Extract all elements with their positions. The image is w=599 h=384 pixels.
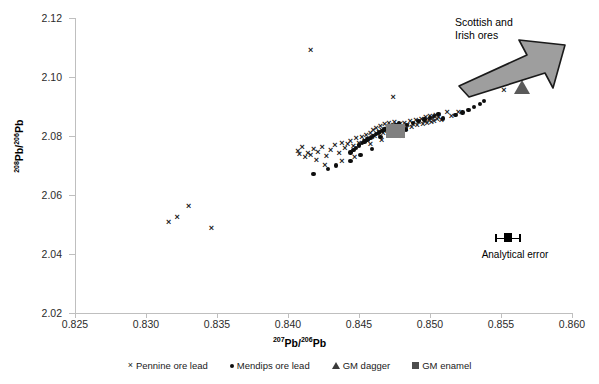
y-tick-label: 2.12 <box>20 13 62 23</box>
legend-item-3: GM enamel <box>412 360 471 371</box>
data-point-x <box>319 144 326 151</box>
scatter-plot-figure: 2.022.042.062.082.102.12 0.8250.8300.835… <box>0 0 599 384</box>
trend-arrow-icon <box>455 36 570 98</box>
annotation-line-1: Scottish and <box>455 16 560 29</box>
analytical-error-marker <box>495 233 521 243</box>
x-axis-title-end: Pb <box>313 337 326 349</box>
chart-legend: ×Pennine ore leadMendips ore leadGM dagg… <box>0 360 599 371</box>
data-point-dot <box>466 108 470 112</box>
data-point-dot <box>348 159 352 163</box>
data-point-dot <box>370 147 374 151</box>
legend-label: GM dagger <box>343 360 391 371</box>
x-tick-label: 0.860 <box>542 318 599 330</box>
data-point-dot <box>358 153 362 157</box>
error-bar-cap-right <box>519 234 521 242</box>
legend-marker-icon <box>412 362 419 369</box>
data-point-x <box>313 157 320 164</box>
data-point-dot <box>472 105 476 109</box>
data-point-dot <box>436 112 440 116</box>
data-point-dot <box>478 102 482 106</box>
x-tick-label: 0.845 <box>329 318 389 330</box>
x-tick-label: 0.825 <box>45 318 105 330</box>
data-point-x <box>174 214 181 221</box>
data-point-dot <box>311 172 315 176</box>
data-point-x <box>307 47 314 54</box>
legend-label: GM enamel <box>422 360 471 371</box>
data-point-dot <box>441 116 445 120</box>
y-axis-title: 208Pb/206Pb <box>13 96 26 196</box>
data-point-dot <box>334 163 338 167</box>
y-tick-label: 2.02 <box>20 308 62 318</box>
data-point-x <box>338 158 345 165</box>
error-bar-cap-left <box>495 234 497 242</box>
data-point-x <box>165 219 172 226</box>
x-axis-title-mid: Pb/ <box>285 337 301 349</box>
legend-label: Pennine ore lead <box>136 360 208 371</box>
x-axis-title: 207Pb/206Pb <box>0 336 599 349</box>
legend-marker-icon: × <box>128 361 133 370</box>
y-tick-label: 2.06 <box>20 190 62 200</box>
y-tick-label: 2.10 <box>20 72 62 82</box>
legend-label: Mendips ore lead <box>237 360 310 371</box>
data-point-dot <box>460 110 464 114</box>
x-tick-label: 0.835 <box>187 318 247 330</box>
data-point-dot <box>453 113 457 117</box>
data-point-dot <box>378 135 382 139</box>
y-axis-title-sup2: 206 <box>13 133 20 145</box>
x-tick-label: 0.850 <box>400 318 460 330</box>
data-point-dot <box>326 167 330 171</box>
x-axis-title-sup2: 206 <box>301 336 313 343</box>
legend-marker-icon <box>332 362 340 369</box>
data-point-x <box>208 225 215 232</box>
x-axis-line <box>75 313 572 314</box>
error-bar-center <box>504 233 512 242</box>
analytical-error-label: Analytical error <box>440 249 590 260</box>
legend-item-0: ×Pennine ore lead <box>128 360 208 371</box>
y-axis-title-mid: Pb/ <box>13 145 25 161</box>
y-axis-title-sup1: 208 <box>13 161 20 173</box>
data-point-dot <box>422 117 426 121</box>
data-point-dot <box>482 99 486 103</box>
legend-item-1: Mendips ore lead <box>230 360 310 371</box>
legend-item-2: GM dagger <box>332 360 391 371</box>
x-axis-title-sup1: 207 <box>273 336 285 343</box>
data-point-x <box>185 203 192 210</box>
x-tick-label: 0.840 <box>258 318 318 330</box>
legend-marker-icon <box>230 364 234 368</box>
y-tick-label: 2.04 <box>20 249 62 259</box>
data-point-square <box>386 124 405 138</box>
x-tick-label: 0.855 <box>471 318 531 330</box>
data-point-x <box>390 94 397 101</box>
x-tick-label: 0.830 <box>116 318 176 330</box>
y-tick-label: 2.08 <box>20 131 62 141</box>
y-axis-title-end: Pb <box>13 120 25 133</box>
